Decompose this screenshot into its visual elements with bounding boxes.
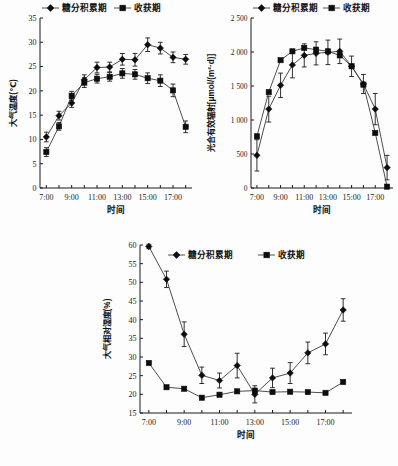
y-axis-title: 大气温度(℃) bbox=[8, 79, 18, 127]
x-tick-label: 11:00 bbox=[88, 193, 106, 202]
diamond-marker-icon bbox=[163, 276, 169, 282]
diamond-marker-icon bbox=[47, 5, 54, 12]
x-tick-label: 15:00 bbox=[281, 418, 299, 427]
x-axis-title: 时间 bbox=[313, 204, 331, 215]
legend-label-2: 收获期 bbox=[134, 2, 161, 13]
diamond-marker-icon bbox=[372, 106, 378, 112]
y-tick-label: 45 bbox=[129, 297, 137, 306]
square-marker-icon bbox=[94, 76, 99, 81]
chart-panel-par: 05001 0001 5002 0002 5007:009:0011:0013:… bbox=[199, 0, 398, 233]
y-tick-label: 5 bbox=[33, 160, 37, 169]
series-polyline bbox=[257, 51, 387, 167]
square-marker-icon bbox=[305, 389, 310, 394]
y-tick-label: 35 bbox=[29, 14, 37, 23]
diamond-marker-icon bbox=[157, 45, 163, 51]
square-marker-icon bbox=[199, 395, 204, 400]
y-tick-label: 0 bbox=[244, 184, 248, 193]
square-marker-icon bbox=[146, 360, 151, 365]
square-marker-icon bbox=[264, 252, 270, 258]
diamond-marker-icon bbox=[173, 252, 180, 259]
series-polyline bbox=[46, 73, 185, 152]
y-tick-label: 20 bbox=[29, 87, 37, 96]
series-polyline bbox=[149, 246, 343, 394]
diamond-marker-icon bbox=[340, 307, 346, 313]
square-marker-icon bbox=[182, 386, 187, 391]
series-2 bbox=[254, 45, 389, 189]
square-marker-icon bbox=[120, 5, 126, 11]
series-2 bbox=[44, 69, 189, 157]
y-axis-title: 光合有效辐射[μmol/(m²·d)] bbox=[206, 53, 216, 153]
y-tick-label: 500 bbox=[236, 150, 247, 159]
square-marker-icon bbox=[254, 134, 259, 139]
square-marker-icon bbox=[384, 184, 389, 189]
y-tick-label: 1 000 bbox=[231, 116, 248, 125]
square-marker-icon bbox=[120, 71, 125, 76]
diamond-marker-icon bbox=[277, 82, 283, 88]
axis-frame bbox=[40, 18, 192, 188]
square-marker-icon bbox=[217, 392, 222, 397]
x-tick-label: 7:00 bbox=[39, 193, 53, 202]
chart-panel-relative-humidity: 152025303540455055607:009:0011:0013:0015… bbox=[60, 233, 398, 466]
y-tick-label: 55 bbox=[129, 260, 137, 269]
axis-frame bbox=[251, 18, 393, 188]
y-tick-label: 1 500 bbox=[231, 82, 248, 91]
x-tick-label: 13:00 bbox=[113, 193, 131, 202]
legend: 糖分积累期收获期 bbox=[253, 2, 370, 13]
diamond-marker-icon bbox=[170, 54, 176, 60]
square-marker-icon bbox=[270, 389, 275, 394]
square-marker-icon bbox=[290, 49, 295, 54]
x-tick-label: 15:00 bbox=[342, 193, 360, 202]
series-polyline bbox=[257, 48, 387, 187]
x-axis-title: 时间 bbox=[107, 204, 125, 215]
legend-label-1: 糖分积累期 bbox=[188, 249, 233, 260]
square-marker-icon bbox=[329, 5, 335, 11]
diamond-marker-icon bbox=[258, 5, 265, 12]
legend-label-2: 收获期 bbox=[278, 249, 305, 260]
square-marker-icon bbox=[44, 149, 49, 154]
diamond-marker-icon bbox=[199, 372, 205, 378]
series-1 bbox=[146, 243, 347, 403]
y-tick-label: 50 bbox=[129, 278, 137, 287]
y-tick-label: 30 bbox=[129, 353, 137, 362]
square-marker-icon bbox=[278, 58, 283, 63]
square-marker-icon bbox=[82, 80, 87, 85]
legend: 糖分积累期收获期 bbox=[42, 2, 161, 13]
diamond-marker-icon bbox=[43, 134, 49, 140]
square-marker-icon bbox=[361, 82, 366, 87]
diamond-marker-icon bbox=[106, 64, 112, 70]
y-tick-label: 25 bbox=[29, 62, 37, 71]
x-tick-label: 9:00 bbox=[65, 193, 79, 202]
legend-label-2: 收获期 bbox=[343, 2, 370, 13]
y-tick-label: 30 bbox=[29, 38, 37, 47]
legend: 糖分积累期收获期 bbox=[168, 249, 305, 260]
x-tick-label: 7:00 bbox=[142, 418, 156, 427]
square-marker-icon bbox=[302, 45, 307, 50]
x-tick-label: 13:00 bbox=[319, 193, 337, 202]
y-tick-label: 25 bbox=[129, 372, 137, 381]
diamond-marker-icon bbox=[182, 56, 188, 62]
diamond-marker-icon bbox=[384, 164, 390, 170]
square-marker-icon bbox=[164, 385, 169, 390]
x-tick-label: 17:00 bbox=[164, 193, 182, 202]
square-marker-icon bbox=[69, 93, 74, 98]
y-tick-label: 35 bbox=[129, 334, 137, 343]
diamond-marker-icon bbox=[322, 341, 328, 347]
y-axis-title: 大气相对湿度(%) bbox=[102, 298, 112, 359]
square-marker-icon bbox=[288, 389, 293, 394]
x-tick-label: 17:00 bbox=[366, 193, 384, 202]
figure-three-panel-microclimate: 051015202530357:009:0011:0013:0015:0017:… bbox=[0, 0, 398, 466]
legend-label-1: 糖分积累期 bbox=[273, 2, 318, 13]
square-marker-icon bbox=[325, 49, 330, 54]
square-marker-icon bbox=[323, 390, 328, 395]
legend-label-1: 糖分积累期 bbox=[62, 2, 107, 13]
x-axis-title: 时间 bbox=[237, 429, 255, 440]
square-marker-icon bbox=[183, 124, 188, 129]
square-marker-icon bbox=[56, 124, 61, 129]
square-marker-icon bbox=[170, 88, 175, 93]
square-marker-icon bbox=[252, 388, 257, 393]
diamond-marker-icon bbox=[119, 56, 125, 62]
series-polyline bbox=[46, 45, 185, 137]
y-tick-label: 15 bbox=[129, 409, 137, 418]
y-tick-label: 0 bbox=[33, 184, 37, 193]
diamond-marker-icon bbox=[181, 331, 187, 337]
